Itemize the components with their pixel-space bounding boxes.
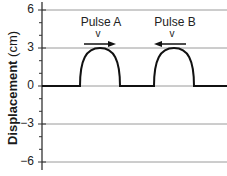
pulse-a-velocity-label: v bbox=[88, 28, 108, 39]
tick-label-6: 6 bbox=[14, 2, 34, 16]
arrow-right-icon bbox=[84, 41, 116, 47]
tick-label-minus-3: −3 bbox=[14, 116, 34, 130]
pulse-a-label: Pulse A bbox=[71, 15, 131, 29]
pulse-b-label: Pulse B bbox=[145, 15, 205, 29]
tick-label-3: 3 bbox=[14, 40, 34, 54]
wave-string bbox=[42, 48, 227, 86]
tick-label-0: 0 bbox=[14, 78, 34, 92]
arrow-left-icon bbox=[154, 41, 186, 47]
tick-label-minus-6: −6 bbox=[14, 154, 34, 168]
pulse-b-velocity-label: v bbox=[162, 28, 182, 39]
y-axis-label-main: Displacement bbox=[5, 61, 20, 146]
